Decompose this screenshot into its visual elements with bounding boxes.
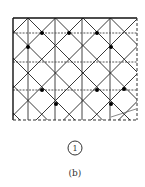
marker-label: 1	[72, 144, 77, 153]
lattice-node	[54, 102, 58, 106]
lattice-diagram: 1 (b)	[0, 0, 145, 187]
lattice-node	[109, 45, 113, 49]
lattice-node	[95, 31, 99, 35]
lattice-node	[95, 88, 99, 92]
figure-caption: (b)	[69, 168, 82, 178]
lattice-node	[122, 87, 126, 91]
lattice-node	[67, 31, 71, 35]
diagonal-line-down	[0, 18, 75, 120]
lattice-node	[26, 45, 30, 49]
lattice-node	[109, 102, 113, 106]
lattice-node	[40, 88, 44, 92]
lattice-nodes	[26, 31, 126, 106]
diagonal-line-up	[0, 18, 1, 120]
corner-stroke	[111, 109, 136, 117]
lattice-node	[40, 31, 44, 35]
diagonal-line-down	[138, 18, 145, 120]
